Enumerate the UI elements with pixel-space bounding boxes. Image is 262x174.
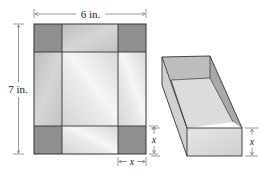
corner-square-bottom-left: [34, 126, 62, 154]
sheet-base: [62, 52, 118, 126]
box-height-label: x: [249, 136, 255, 147]
flap-right: [118, 52, 146, 126]
flap-bottom: [62, 126, 118, 154]
corner-square-top-left: [34, 24, 62, 52]
box-height-dimension: x: [245, 128, 258, 156]
box-front-wall: [187, 128, 242, 156]
cut-size-horizontal-label: x: [129, 156, 135, 167]
flap-left: [34, 52, 62, 126]
corner-square-bottom-right: [118, 126, 146, 154]
diagram-canvas: 6 in. 7 in. x x: [0, 0, 262, 174]
height-dimension: 7 in.: [8, 24, 28, 154]
height-label: 7 in.: [8, 83, 28, 95]
corner-square-top-right: [118, 24, 146, 52]
width-label: 6 in.: [81, 8, 101, 20]
width-dimension: 6 in.: [34, 8, 146, 20]
open-box: [162, 56, 242, 156]
flap-top: [62, 24, 118, 52]
cut-size-vertical-label: x: [151, 134, 157, 145]
cut-size-horizontal-dimension: x: [118, 156, 146, 167]
cut-size-vertical-dimension: x: [149, 126, 158, 154]
flat-sheet: [34, 24, 146, 154]
